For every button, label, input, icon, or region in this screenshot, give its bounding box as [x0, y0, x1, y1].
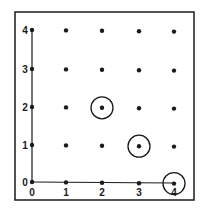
x-tick-label: 4	[171, 187, 177, 198]
x-tick-label: 1	[63, 187, 69, 198]
frame	[15, 12, 194, 200]
grid-point	[172, 106, 176, 110]
grid-point	[137, 68, 141, 72]
grid-point	[137, 29, 141, 33]
grid-point	[30, 67, 34, 71]
x-tick-label: 0	[29, 187, 35, 198]
grid-point	[137, 144, 141, 148]
grid-point	[172, 181, 176, 185]
grid-point	[172, 68, 176, 72]
y-tick-label: 4	[22, 25, 28, 36]
grid-point	[172, 29, 176, 33]
grid-point	[64, 143, 68, 147]
x-tick-labels: 01234	[29, 187, 177, 198]
grid-points	[30, 28, 176, 186]
grid-point	[30, 180, 34, 184]
y-tick-label: 1	[22, 140, 28, 151]
grid-point	[100, 68, 104, 72]
grid-point	[64, 180, 68, 184]
grid-point	[64, 28, 68, 32]
grid-point	[64, 105, 68, 109]
grid-point	[100, 181, 104, 185]
grid-point	[172, 144, 176, 148]
grid-point	[30, 28, 34, 32]
grid-point	[100, 144, 104, 148]
x-tick-label: 2	[99, 187, 105, 198]
grid-point	[30, 105, 34, 109]
grid-point	[30, 143, 34, 147]
y-tick-label: 2	[22, 102, 28, 113]
grid-point	[137, 106, 141, 110]
y-tick-label: 0	[22, 177, 28, 188]
grid-point	[64, 67, 68, 71]
x-tick-label: 3	[136, 187, 142, 198]
grid-point	[100, 29, 104, 33]
y-tick-label: 3	[22, 64, 28, 75]
lattice-diagram: 01234 01234	[0, 0, 204, 220]
grid-point	[137, 181, 141, 185]
y-tick-labels: 01234	[22, 25, 28, 188]
grid-point	[100, 106, 104, 110]
